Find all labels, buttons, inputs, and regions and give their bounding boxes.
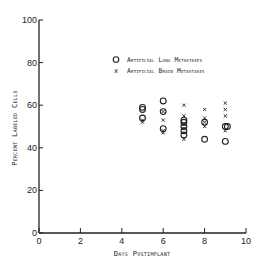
- axes: 020406080100 0246810: [22, 15, 251, 246]
- x-marker-icon: [224, 101, 227, 104]
- x-ticks: 0246810: [36, 228, 251, 246]
- y-axis-title: Percent Labeled Cells: [11, 90, 19, 166]
- scatter-chart: 020406080100 0246810 Days Postimplant Pe…: [0, 0, 263, 270]
- x-tick-label: 4: [119, 236, 124, 246]
- circle-marker-icon: [160, 98, 166, 104]
- x-tick-label: 2: [78, 236, 83, 246]
- x-marker-icon: [203, 108, 206, 111]
- x-tick-label: 10: [241, 236, 251, 246]
- y-ticks: 020406080100: [22, 15, 43, 238]
- circle-marker-icon: [222, 139, 228, 145]
- x-marker-icon: [224, 108, 227, 111]
- x-marker-icon: x: [114, 67, 118, 75]
- x-marker-icon: [203, 121, 206, 124]
- y-tick-label: 80: [27, 58, 37, 68]
- legend-label-lung: Artificial Lung Metastases: [127, 56, 202, 64]
- y-tick-label: 100: [22, 15, 37, 25]
- x-marker-icon: [182, 104, 185, 107]
- x-marker-icon: [162, 110, 165, 113]
- data-points: [140, 98, 231, 144]
- legend: Artificial Lung Metastases x Artificial …: [113, 56, 205, 75]
- x-tick-label: 8: [202, 236, 207, 246]
- x-marker-icon: [162, 119, 165, 122]
- x-axis-title: Days Postimplant: [114, 250, 171, 258]
- x-tick-label: 0: [36, 236, 41, 246]
- x-tick-label: 6: [161, 236, 166, 246]
- circle-marker-icon: [113, 57, 119, 63]
- legend-item-brain: x Artificial Brain Metastases: [114, 67, 205, 75]
- circle-marker-icon: [202, 136, 208, 142]
- legend-item-lung: Artificial Lung Metastases: [113, 56, 202, 64]
- x-marker-icon: [224, 114, 227, 117]
- y-tick-label: 40: [27, 143, 37, 153]
- y-tick-label: 60: [27, 100, 37, 110]
- legend-label-brain: Artificial Brain Metastases: [127, 67, 205, 75]
- circle-marker-icon: [181, 132, 187, 138]
- y-tick-label: 20: [27, 185, 37, 195]
